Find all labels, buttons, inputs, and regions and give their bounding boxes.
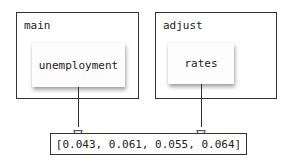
reference-line-unemployment — [78, 87, 79, 127]
variable-rates: rates — [168, 43, 234, 84]
frame-label-main: main — [24, 19, 51, 32]
variable-label-rates: rates — [184, 57, 217, 70]
variable-unemployment: unemployment — [32, 43, 125, 87]
reference-line-rates — [201, 84, 202, 127]
list-value-text: [0.043, 0.061, 0.055, 0.064] — [56, 138, 241, 151]
shared-list-value: [0.043, 0.061, 0.055, 0.064] — [50, 133, 247, 155]
frame-label-adjust: adjust — [163, 19, 203, 32]
variable-label-unemployment: unemployment — [39, 59, 118, 72]
